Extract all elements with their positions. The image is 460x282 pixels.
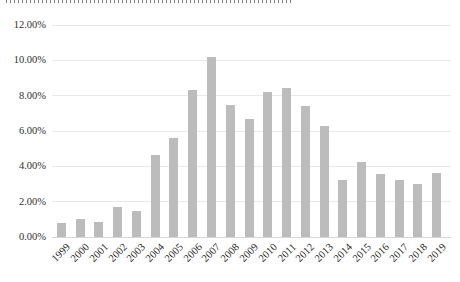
bar-2002	[113, 207, 122, 237]
horizontal-gridline	[52, 25, 451, 26]
y-tick-label: 6.00%	[2, 126, 46, 136]
bar-2003	[132, 211, 141, 237]
y-tick-label: 4.00%	[2, 161, 46, 171]
y-tick-label: 12.00%	[2, 20, 46, 30]
horizontal-gridline	[52, 60, 451, 61]
bar-2009	[245, 119, 254, 237]
bar-2005	[169, 138, 178, 237]
bar-1999	[57, 223, 66, 237]
y-tick-label: 10.00%	[2, 55, 46, 65]
bar-2015	[357, 162, 366, 237]
bar-2007	[207, 57, 216, 237]
bar-2016	[376, 174, 385, 237]
bar-2000	[76, 219, 85, 237]
y-tick-label: 0.00%	[2, 232, 46, 242]
y-tick-label: 2.00%	[2, 197, 46, 207]
chart-canvas: 12.00%10.00%8.00%6.00%4.00%2.00%0.00%199…	[0, 0, 460, 282]
bar-2019	[432, 173, 441, 237]
bar-2013	[320, 126, 329, 237]
bar-2012	[301, 106, 310, 237]
bar-2018	[413, 184, 422, 237]
bar-2008	[226, 105, 235, 237]
bar-2014	[338, 180, 347, 237]
y-tick-label: 8.00%	[2, 91, 46, 101]
horizontal-gridline	[52, 95, 451, 96]
bar-2011	[282, 88, 291, 237]
clipped-title-fragment	[6, 0, 293, 3]
bar-2001	[94, 222, 103, 237]
bar-2006	[188, 90, 197, 237]
bar-2017	[395, 180, 404, 237]
bar-2010	[263, 92, 272, 237]
bar-2004	[151, 155, 160, 237]
